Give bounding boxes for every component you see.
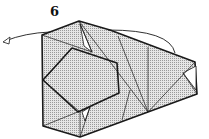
origami-fold-diagram bbox=[0, 0, 209, 139]
